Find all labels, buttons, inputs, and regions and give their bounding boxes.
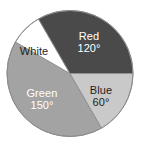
pie-label-red-name: Red <box>66 30 112 42</box>
pie-label-white: White <box>10 45 58 57</box>
pie-label-red-angle: 120° <box>66 42 112 54</box>
pie-chart: Red 120° Blue 60° Green 150° White <box>0 0 141 151</box>
pie-label-blue: Blue 60° <box>79 84 123 109</box>
pie-chart-graphic <box>0 0 141 151</box>
pie-label-red: Red 120° <box>66 30 112 55</box>
pie-label-green-name: Green <box>16 87 68 99</box>
pie-label-green: Green 150° <box>16 87 68 112</box>
pie-label-blue-angle: 60° <box>79 96 123 108</box>
pie-label-blue-name: Blue <box>79 84 123 96</box>
pie-label-green-angle: 150° <box>16 99 68 111</box>
pie-label-white-name: White <box>10 45 58 57</box>
